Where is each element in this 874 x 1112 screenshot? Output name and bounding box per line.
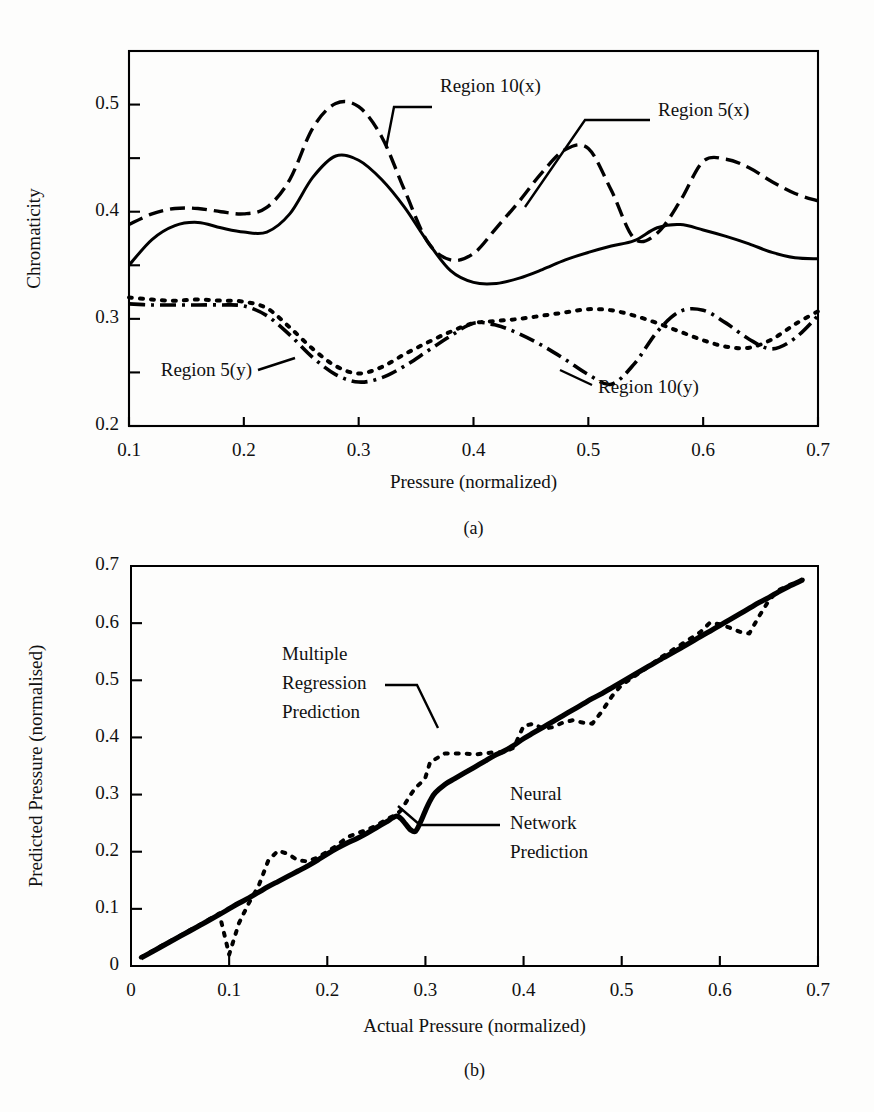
annotation-region-5y: Region 5(y) — [161, 359, 252, 381]
x-tick-label-b: 0.7 — [806, 979, 830, 1000]
y-tick-label-b: 0.7 — [95, 553, 119, 574]
chart-a-canvas: 0.10.20.30.40.50.60.70.20.30.40.5Pressur… — [0, 0, 874, 560]
y-tick-label-b: 0.2 — [95, 839, 119, 860]
x-tick-label-b: 0.3 — [414, 979, 438, 1000]
y-tick-label-a: 0.4 — [95, 199, 119, 220]
y-tick-label-a: 0.3 — [95, 306, 119, 327]
x-tick-label-b: 0.6 — [708, 979, 732, 1000]
y-axis-title-b: Predicted Pressure (normalised) — [25, 645, 47, 888]
x-tick-label-a: 0.5 — [576, 439, 600, 460]
y-tick-label-a: 0.2 — [95, 413, 119, 434]
y-tick-label-b: 0.3 — [95, 782, 119, 803]
leader-region-5x — [525, 120, 650, 207]
annotation-multiple-regression-line: Regression — [282, 672, 367, 693]
series-line-region-5-x- — [129, 155, 818, 284]
leader-region-10x — [386, 107, 432, 148]
series-line-neural-network-prediction — [141, 580, 803, 958]
x-tick-label-a: 0.7 — [806, 439, 830, 460]
x-tick-label-b: 0 — [126, 979, 136, 1000]
panel-a-caption: (a) — [464, 518, 484, 539]
annotation-neural-network-line: Network — [510, 812, 577, 833]
x-axis-title-a: Pressure (normalized) — [390, 471, 557, 493]
annotation-multiple-regression-line: Prediction — [282, 701, 361, 722]
x-tick-label-b: 0.2 — [315, 979, 339, 1000]
annotation-multiple-regression-line: Multiple — [282, 643, 347, 664]
chart-b-canvas: 00.10.20.30.40.50.60.700.10.20.30.40.50.… — [0, 548, 874, 1112]
annotation-neural-network-line: Prediction — [510, 841, 589, 862]
y-tick-label-b: 0.5 — [95, 668, 119, 689]
chart-panel-b: 00.10.20.30.40.50.60.700.10.20.30.40.50.… — [0, 548, 874, 1112]
annotation-region-5x: Region 5(x) — [658, 99, 749, 121]
series-line-region-10-x- — [129, 101, 818, 260]
x-tick-label-a: 0.6 — [691, 439, 715, 460]
leader-multiple-regression — [385, 685, 438, 728]
chart-panel-a: 0.10.20.30.40.50.60.70.20.30.40.5Pressur… — [0, 0, 874, 560]
annotation-neural-network-line: Neural — [510, 783, 562, 804]
y-axis-title-a: Chromaticity — [23, 188, 44, 289]
panel-b-caption: (b) — [464, 1060, 485, 1081]
x-tick-label-b: 0.5 — [610, 979, 634, 1000]
y-tick-label-b: 0.4 — [95, 725, 119, 746]
x-tick-label-a: 0.4 — [462, 439, 486, 460]
y-tick-label-b: 0.6 — [95, 611, 119, 632]
x-tick-label-a: 0.1 — [117, 439, 141, 460]
y-tick-label-a: 0.5 — [95, 92, 119, 113]
x-tick-label-a: 0.2 — [232, 439, 256, 460]
y-tick-label-b: 0 — [110, 953, 120, 974]
annotation-region-10x: Region 10(x) — [440, 75, 541, 97]
x-tick-label-b: 0.4 — [512, 979, 536, 1000]
x-tick-label-b: 0.1 — [217, 979, 241, 1000]
leader-neural-network — [398, 806, 500, 825]
x-tick-label-a: 0.3 — [347, 439, 371, 460]
annotation-region-10y: Region 10(y) — [598, 376, 699, 398]
figure-page: 0.10.20.30.40.50.60.70.20.30.40.5Pressur… — [0, 0, 874, 1112]
x-axis-title-b: Actual Pressure (normalized) — [363, 1015, 586, 1037]
leader-region-5y — [258, 358, 295, 370]
y-tick-label-b: 0.1 — [95, 896, 119, 917]
